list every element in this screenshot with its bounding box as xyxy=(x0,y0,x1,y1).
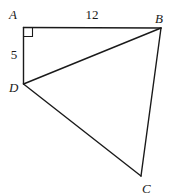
length-label-ad: 5 xyxy=(11,47,18,62)
edge-dc xyxy=(24,84,142,176)
edge-bc xyxy=(141,28,161,176)
edge-db xyxy=(24,28,162,84)
vertex-label-b: B xyxy=(155,11,163,26)
edge-ab xyxy=(24,28,162,29)
quadrilateral-diagram: A B D C 12 5 xyxy=(0,0,174,195)
vertex-label-a: A xyxy=(8,7,17,22)
vertex-label-d: D xyxy=(8,80,19,95)
right-angle-marker-a xyxy=(24,28,33,37)
length-label-ab: 12 xyxy=(86,7,99,22)
vertex-label-c: C xyxy=(142,181,151,195)
